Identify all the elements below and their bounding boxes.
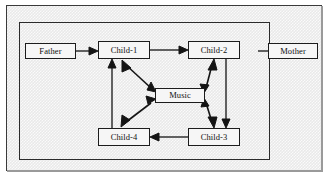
edge-child3-to-child4 bbox=[150, 133, 188, 141]
node-child4-label: Child-4 bbox=[111, 133, 138, 142]
node-mother-label: Mother bbox=[280, 47, 306, 56]
node-child3[interactable]: Child-3 bbox=[188, 128, 240, 146]
node-child3-label: Child-3 bbox=[201, 133, 228, 142]
node-music[interactable]: Music bbox=[155, 88, 205, 103]
node-father-label: Father bbox=[39, 47, 61, 56]
node-mother[interactable]: Mother bbox=[268, 43, 318, 59]
node-child2[interactable]: Child-2 bbox=[188, 41, 240, 59]
edge-child4-music-bidirectional bbox=[121, 96, 156, 127]
edge-father-to-child1 bbox=[76, 47, 98, 55]
diagram-screenshot: Father Child-1 Child-2 Mother Music Chil… bbox=[0, 0, 334, 195]
edge-child4-to-child1 bbox=[108, 59, 116, 128]
node-child2-label: Child-2 bbox=[201, 46, 228, 55]
node-child1-label: Child-1 bbox=[111, 46, 138, 55]
node-music-label: Music bbox=[169, 91, 191, 100]
edge-child2-to-child3 bbox=[222, 59, 230, 128]
node-father[interactable]: Father bbox=[25, 43, 76, 59]
node-child1[interactable]: Child-1 bbox=[98, 41, 150, 59]
edge-child1-to-child2 bbox=[150, 46, 188, 54]
edge-child1-music-bidirectional bbox=[122, 60, 156, 92]
node-child4[interactable]: Child-4 bbox=[98, 128, 150, 146]
